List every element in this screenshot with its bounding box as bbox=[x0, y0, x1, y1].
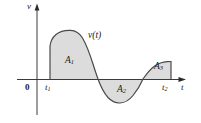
area-a2-label-sub: 2 bbox=[123, 87, 126, 94]
t1-tick-label: t1 bbox=[45, 83, 51, 92]
t2-tick-label: t2 bbox=[162, 83, 168, 92]
waveform-plot bbox=[0, 0, 201, 123]
area-a3-label-sub: 3 bbox=[160, 64, 163, 71]
curve-label: v(t) bbox=[88, 31, 101, 41]
v-axis-arrowhead bbox=[35, 4, 40, 11]
area-a1-label: A1 bbox=[65, 56, 74, 66]
area-a1-label-sub: 1 bbox=[71, 58, 74, 65]
area-a2-label: A2 bbox=[117, 85, 126, 95]
waveform-figure: v v(t) A1 A2 A3 0 t1 t2 t bbox=[0, 0, 201, 123]
t2-label-sub: 2 bbox=[165, 86, 168, 92]
t1-label-sub: 1 bbox=[48, 86, 51, 92]
v-axis-label: v bbox=[27, 2, 31, 11]
t-axis-label: t bbox=[181, 83, 184, 92]
area-a3-label: A3 bbox=[154, 62, 163, 72]
origin-label: 0 bbox=[25, 83, 30, 92]
